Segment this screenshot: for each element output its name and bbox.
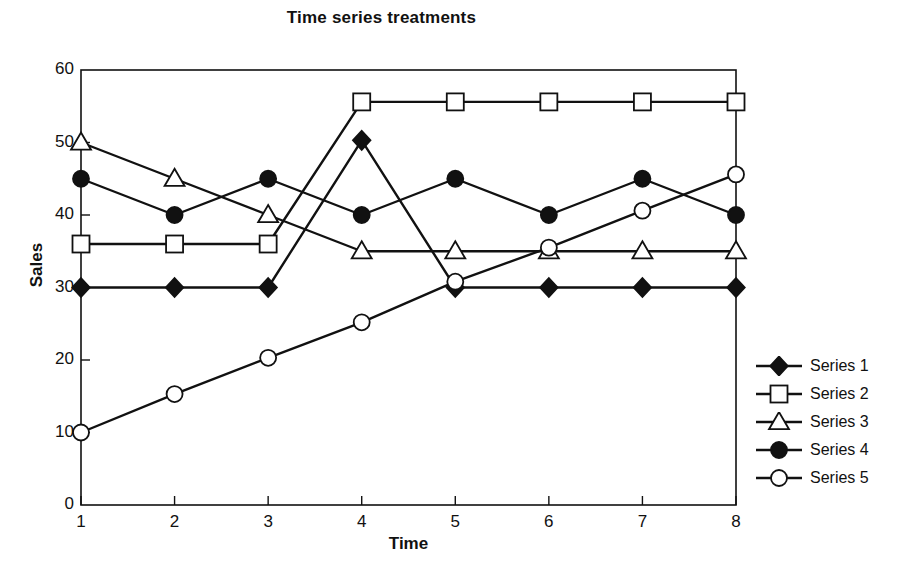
data-point-open-circle bbox=[354, 314, 370, 330]
data-point-open-circle bbox=[634, 203, 650, 219]
legend-marker-open-square bbox=[756, 384, 802, 404]
data-point-open-circle bbox=[73, 425, 89, 441]
legend-item[interactable]: Series 1 bbox=[756, 352, 906, 380]
data-point-filled-circle bbox=[354, 207, 370, 223]
data-point-open-circle bbox=[260, 350, 276, 366]
legend-label: Series 5 bbox=[810, 469, 869, 487]
legend-marker-filled-diamond bbox=[756, 356, 802, 376]
data-point-filled-diamond bbox=[727, 278, 744, 297]
data-point-open-triangle bbox=[71, 133, 91, 150]
data-point-open-triangle bbox=[165, 169, 185, 186]
data-point-open-square bbox=[166, 236, 183, 253]
data-point-filled-diamond bbox=[166, 278, 183, 297]
chart-container: Time series treatments Sales Time 010203… bbox=[0, 0, 913, 570]
data-point-open-circle bbox=[728, 166, 744, 182]
data-point-filled-circle bbox=[260, 171, 276, 187]
data-point-filled-circle bbox=[73, 171, 89, 187]
data-point-open-square bbox=[771, 386, 788, 403]
chart-legend: Series 1Series 2Series 3Series 4Series 5 bbox=[756, 352, 906, 492]
data-point-filled-diamond bbox=[770, 357, 787, 376]
legend-label: Series 1 bbox=[810, 357, 869, 375]
legend-marker-open-triangle bbox=[756, 412, 802, 432]
legend-marker-open-circle bbox=[756, 468, 802, 488]
data-point-open-circle bbox=[447, 274, 463, 290]
data-point-open-triangle bbox=[352, 241, 372, 258]
data-point-filled-diamond bbox=[259, 278, 276, 297]
data-point-open-square bbox=[540, 93, 557, 110]
data-point-filled-circle bbox=[728, 207, 744, 223]
legend-label: Series 3 bbox=[810, 413, 869, 431]
data-point-open-square bbox=[447, 93, 464, 110]
data-point-open-square bbox=[260, 236, 277, 253]
legend-marker-filled-circle bbox=[756, 440, 802, 460]
data-point-open-square bbox=[634, 93, 651, 110]
data-point-open-circle bbox=[167, 386, 183, 402]
data-point-filled-circle bbox=[634, 171, 650, 187]
legend-label: Series 2 bbox=[810, 385, 869, 403]
data-point-open-square bbox=[728, 93, 745, 110]
data-point-open-triangle bbox=[632, 241, 652, 258]
data-point-open-circle bbox=[541, 240, 557, 256]
data-point-open-square bbox=[73, 236, 90, 253]
data-point-open-triangle bbox=[726, 241, 746, 258]
data-point-filled-circle bbox=[447, 171, 463, 187]
legend-item[interactable]: Series 4 bbox=[756, 436, 906, 464]
legend-label: Series 4 bbox=[810, 441, 869, 459]
data-point-filled-diamond bbox=[353, 131, 370, 150]
data-point-open-circle bbox=[771, 470, 787, 486]
data-point-filled-circle bbox=[167, 207, 183, 223]
data-point-open-triangle bbox=[258, 205, 278, 222]
data-point-filled-diamond bbox=[72, 278, 89, 297]
data-point-filled-diamond bbox=[634, 278, 651, 297]
data-point-filled-diamond bbox=[540, 278, 557, 297]
data-point-open-triangle bbox=[769, 412, 789, 429]
legend-item[interactable]: Series 2 bbox=[756, 380, 906, 408]
data-point-open-square bbox=[353, 93, 370, 110]
legend-item[interactable]: Series 5 bbox=[756, 464, 906, 492]
legend-item[interactable]: Series 3 bbox=[756, 408, 906, 436]
data-point-filled-circle bbox=[771, 442, 787, 458]
data-point-open-triangle bbox=[445, 241, 465, 258]
data-point-filled-circle bbox=[541, 207, 557, 223]
